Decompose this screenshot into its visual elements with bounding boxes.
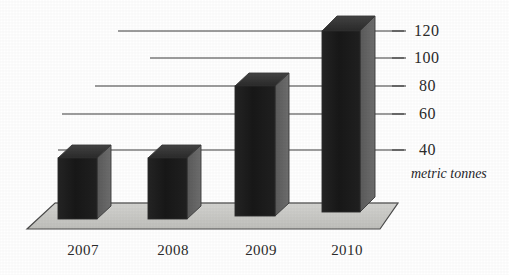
bar-2008[interactable] (148, 145, 201, 219)
axis-tick-label-60: 60 (419, 106, 436, 122)
category-label-2010: 2010 (324, 243, 370, 258)
axis-tick-label-100: 100 (414, 50, 440, 66)
bar-chart-figure: 120 100 80 60 40 metric tonnes 2007 2008… (0, 0, 509, 275)
bar-2008-front (148, 158, 187, 219)
bar-2010-front (322, 31, 360, 212)
axis-tick-label-40: 40 (419, 142, 436, 158)
bar-2010-side (360, 16, 375, 212)
chart-canvas (0, 0, 509, 275)
axis-tick-label-80: 80 (419, 78, 436, 94)
category-label-2008: 2008 (150, 243, 196, 258)
tick-mark-group (392, 31, 406, 150)
bar-2009-front (235, 86, 275, 216)
axis-tick-label-120: 120 (414, 23, 440, 39)
category-label-2009: 2009 (238, 243, 284, 258)
y-axis-unit-label: metric tonnes (411, 167, 487, 181)
category-label-2007: 2007 (60, 243, 106, 258)
bar-2009[interactable] (235, 73, 289, 216)
bar-2010[interactable] (322, 16, 375, 212)
bar-2007-front (58, 158, 97, 219)
bar-2009-side (275, 73, 289, 216)
bar-2007[interactable] (58, 145, 111, 219)
